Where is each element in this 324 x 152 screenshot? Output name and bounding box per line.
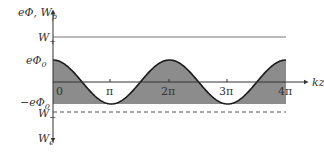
tick-label-2pi: 2π (161, 85, 175, 98)
tick-label-0: 0 (56, 85, 63, 98)
tick-label-4pi: 4π (278, 85, 292, 98)
tick-label-pi: π (106, 85, 113, 98)
potential-energy-diagram: 0 π 2π 3π 4π kz eΦ, Wp W+ eΦ0 −eΦ0 W− We (0, 0, 324, 152)
x-axis-label: kz (312, 76, 324, 89)
w-e-label: We (38, 132, 54, 147)
tick-label-3pi: 3π (219, 85, 233, 98)
y-axis-label: eΦ, Wp (18, 6, 57, 21)
phi0-label: eΦ0 (26, 54, 47, 69)
